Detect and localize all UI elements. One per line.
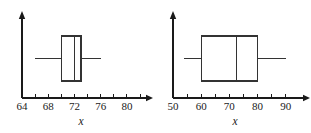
right-x-axis-arrowhead xyxy=(303,95,310,101)
boxplot-panel-left: 6468727680 x xyxy=(0,0,155,133)
right-tick-label-60: 60 xyxy=(196,100,208,112)
left-x-axis-arrowhead xyxy=(146,95,153,101)
right-y-axis-arrowhead xyxy=(170,11,176,19)
boxplot-right-svg: 5060708090 x xyxy=(155,0,311,133)
left-axes xyxy=(19,11,153,101)
right-box-plot xyxy=(184,36,285,81)
left-tick-label-76: 76 xyxy=(95,100,107,112)
left-tick-label-64: 64 xyxy=(17,100,29,112)
left-y-axis-arrowhead xyxy=(19,11,25,19)
boxplot-left-svg: 6468727680 x xyxy=(0,0,155,133)
left-axis-tick-labels: 6468727680 xyxy=(17,100,133,112)
left-tick-label-80: 80 xyxy=(121,100,133,112)
right-tick-label-70: 70 xyxy=(224,100,236,112)
left-x-axis-label: x xyxy=(77,115,84,127)
right-box-iqr xyxy=(201,36,257,81)
left-tick-label-68: 68 xyxy=(43,100,55,112)
left-tick-label-72: 72 xyxy=(69,100,80,112)
right-tick-label-80: 80 xyxy=(252,100,264,112)
right-tick-label-50: 50 xyxy=(168,100,180,112)
left-box-iqr xyxy=(61,36,81,81)
right-x-axis-label: x xyxy=(231,115,238,127)
boxplot-panel-right: 5060708090 x xyxy=(155,0,311,133)
boxplot-figure: 6468727680 x 5060708090 x xyxy=(0,0,311,133)
right-axis-tick-labels: 5060708090 xyxy=(168,100,292,112)
right-tick-label-90: 90 xyxy=(280,100,292,112)
right-axis-ticks xyxy=(173,94,286,98)
left-axis-ticks xyxy=(22,94,140,98)
left-box-plot xyxy=(35,36,101,81)
